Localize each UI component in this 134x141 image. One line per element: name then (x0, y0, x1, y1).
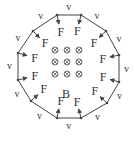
velocity-label: v (124, 63, 129, 74)
force-arrow (79, 109, 81, 118)
force-label: F (99, 52, 106, 66)
velocity-label: v (66, 120, 71, 131)
force-arrow (18, 53, 27, 55)
field-label: B (62, 87, 70, 102)
vertex-dot (17, 52, 20, 55)
velocity-label: v (117, 90, 122, 101)
force-label: F (100, 70, 107, 84)
vertex-dot (32, 30, 35, 33)
vertex-dot (118, 54, 121, 57)
vertex-dot (30, 100, 33, 103)
force-label: F (42, 36, 49, 50)
force-arrow (110, 79, 119, 82)
vertex-dot (80, 117, 83, 120)
vertex-dot (105, 30, 108, 33)
velocity-label: v (38, 10, 43, 21)
force-arrow (100, 97, 107, 103)
vertex-dot (17, 79, 20, 82)
force-label: F (31, 69, 38, 83)
force-arrow (110, 55, 119, 57)
vertex-dot (56, 14, 59, 17)
force-arrow (33, 31, 39, 37)
velocity-label: v (16, 32, 21, 43)
force-label: F (91, 36, 98, 50)
force-label: F (41, 82, 48, 96)
velocity-label: v (95, 10, 100, 21)
force-label: F (58, 25, 65, 39)
force-arrow (57, 109, 59, 118)
force-label: F (31, 51, 38, 65)
velocity-label: v (14, 88, 19, 99)
force-arrow (18, 78, 27, 80)
force-arrow (57, 15, 59, 24)
force-arrow (79, 15, 81, 24)
vertex-dot (80, 14, 83, 17)
vertex-dot (56, 117, 59, 120)
force-label: F (74, 95, 81, 109)
force-label: F (92, 84, 99, 98)
velocity-label: v (7, 60, 12, 71)
velocity-label: v (37, 110, 42, 121)
force-label: F (74, 24, 81, 38)
force-arrow (99, 31, 106, 37)
force-arrow (31, 95, 38, 101)
magnetic-field-diagram: FvFvFvFvFvFvFvFvFvFvFvFv (0, 0, 134, 141)
velocity-label: v (66, 1, 71, 12)
vertex-dot (106, 102, 109, 105)
vertex-dot (118, 81, 121, 84)
velocity-label: v (95, 111, 100, 122)
velocity-label: v (117, 33, 122, 44)
